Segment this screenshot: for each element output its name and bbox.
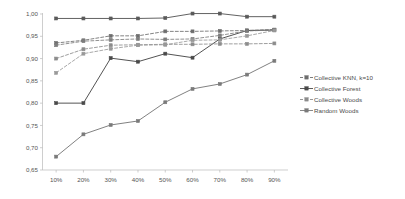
data-point-marker (109, 47, 112, 50)
y-tick-label: 0,85 (26, 77, 39, 84)
x-tick-label: 80% (241, 176, 254, 183)
data-point-marker (82, 48, 85, 51)
x-tick-label: 90% (268, 176, 281, 183)
data-point-marker (82, 17, 85, 20)
data-point-marker (55, 57, 58, 60)
data-point-marker (191, 43, 194, 46)
legend-marker-icon (300, 95, 313, 104)
x-tick-label: 30% (104, 176, 117, 183)
legend-label: Collective Woods (314, 96, 362, 103)
series-line (56, 30, 274, 72)
data-point-marker (273, 29, 276, 32)
data-point-marker (55, 71, 58, 74)
data-point-marker (82, 40, 85, 43)
x-tick-label: 20% (77, 176, 90, 183)
data-point-marker (164, 101, 167, 104)
data-point-marker (55, 155, 58, 158)
chart-legend: Collective KNN, k=10Collective ForestCol… (300, 72, 404, 116)
legend-marker-icon (300, 73, 313, 82)
data-point-marker (273, 15, 276, 18)
data-point-marker (164, 43, 167, 46)
x-axis: 10%20%30%40%50%60%70%80%90% (43, 170, 289, 183)
x-tick-label: 10% (50, 176, 63, 183)
x-tick-label: 40% (132, 176, 145, 183)
x-tick-label: 70% (214, 176, 227, 183)
data-point-marker (82, 52, 85, 55)
data-point-marker (109, 44, 112, 47)
x-tick-label: 60% (186, 176, 199, 183)
legend-marker-icon (300, 84, 313, 93)
data-point-marker (55, 102, 58, 105)
data-point-marker (191, 56, 194, 59)
data-point-marker (136, 34, 139, 37)
y-tick-label: 0,90 (26, 55, 39, 62)
data-point-marker (273, 59, 276, 62)
series-layer (55, 12, 276, 158)
y-axis: 1,000,950,900,850,800,750,700,65 (26, 10, 43, 173)
data-point-marker (164, 52, 167, 55)
y-tick-label: 0,70 (26, 144, 39, 151)
data-point-marker (218, 38, 221, 41)
data-point-marker (246, 42, 249, 45)
data-point-marker (218, 42, 221, 45)
data-point-marker (191, 30, 194, 33)
data-point-marker (246, 34, 249, 37)
legend-marker-icon (300, 106, 313, 115)
y-tick-label: 0,80 (26, 99, 39, 106)
legend-label: Random Woods (314, 107, 359, 114)
data-point-marker (136, 60, 139, 63)
data-point-marker (136, 37, 139, 40)
x-tick-label: 50% (159, 176, 172, 183)
data-point-marker (164, 30, 167, 33)
legend-item[interactable]: Collective Forest (300, 83, 404, 94)
data-point-marker (109, 57, 112, 60)
data-point-marker (218, 34, 221, 37)
data-point-marker (191, 87, 194, 90)
legend-label: Collective KNN, k=10 (314, 74, 373, 81)
data-point-marker (136, 119, 139, 122)
data-point-marker (109, 34, 112, 37)
data-point-marker (246, 15, 249, 18)
data-point-marker (164, 38, 167, 41)
data-point-marker (218, 29, 221, 32)
chart-container: 1,000,950,900,850,800,750,700,65 10%20%3… (0, 0, 405, 199)
series-line (56, 61, 274, 157)
data-point-marker (109, 123, 112, 126)
legend-item[interactable]: Collective Woods (300, 94, 404, 105)
legend-item[interactable]: Random Woods (300, 105, 404, 116)
data-point-marker (109, 17, 112, 20)
data-point-marker (82, 102, 85, 105)
data-point-marker (136, 17, 139, 20)
y-tick-label: 0,65 (26, 166, 39, 173)
data-point-marker (136, 44, 139, 47)
data-point-marker (218, 12, 221, 15)
data-point-marker (164, 17, 167, 20)
data-point-marker (246, 29, 249, 32)
data-point-marker (55, 44, 58, 47)
data-point-marker (55, 17, 58, 20)
y-tick-label: 0,75 (26, 122, 39, 129)
y-tick-label: 0,95 (26, 32, 39, 39)
data-point-marker (191, 12, 194, 15)
y-tick-label: 1,00 (26, 10, 39, 17)
data-point-marker (109, 38, 112, 41)
data-point-marker (218, 82, 221, 85)
data-point-marker (273, 42, 276, 45)
data-point-marker (191, 39, 194, 42)
data-point-marker (246, 73, 249, 76)
legend-item[interactable]: Collective KNN, k=10 (300, 72, 404, 83)
legend-label: Collective Forest (314, 85, 360, 92)
data-point-marker (82, 133, 85, 136)
